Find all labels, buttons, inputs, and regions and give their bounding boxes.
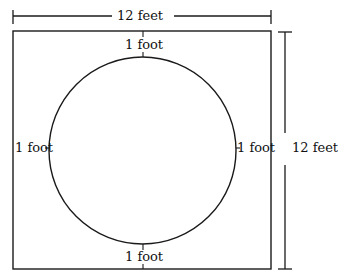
gap-ticks — [45, 31, 240, 269]
gap-bottom-label: 1 foot — [125, 250, 163, 264]
circle-outline — [49, 57, 236, 244]
gap-right-label: 1 foot — [237, 141, 275, 155]
gap-left-label: 1 foot — [15, 141, 53, 155]
width-label: 12 feet — [117, 9, 163, 23]
gap-top-label: 1 foot — [125, 38, 163, 52]
height-label: 12 feet — [289, 141, 338, 155]
